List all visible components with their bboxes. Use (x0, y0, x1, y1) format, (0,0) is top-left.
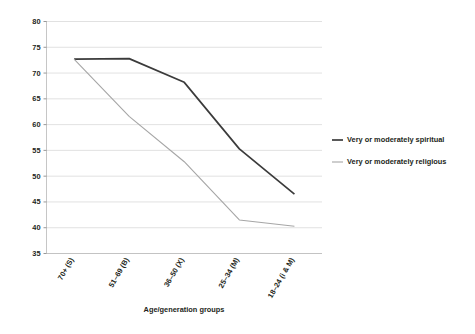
y-axis-tick-label: 40 (32, 223, 40, 232)
y-axis-tick-label: 35 (32, 249, 40, 258)
y-axis-tick-label: 65 (32, 94, 40, 103)
y-axis-tick-label: 70 (32, 69, 40, 78)
y-axis-tick-label: 80 (32, 17, 40, 26)
y-axis-tick-label: 75 (32, 43, 40, 52)
legend-label-religious: Very or moderately religious (347, 157, 446, 166)
y-axis-tick-label: 60 (32, 120, 40, 129)
y-axis-tick-label: 50 (32, 172, 40, 181)
chart-background (0, 0, 475, 334)
line-chart: 80757065605550454035 70+ (S)51–69 (B)36–… (0, 0, 475, 334)
x-axis-title: Age/generation groups (144, 305, 225, 314)
y-axis-tick-label: 55 (32, 146, 40, 155)
chart-canvas: 80757065605550454035 70+ (S)51–69 (B)36–… (0, 0, 475, 334)
legend-label-spiritual: Very or moderately spiritual (347, 135, 444, 144)
y-axis-tick-label: 45 (32, 197, 40, 206)
